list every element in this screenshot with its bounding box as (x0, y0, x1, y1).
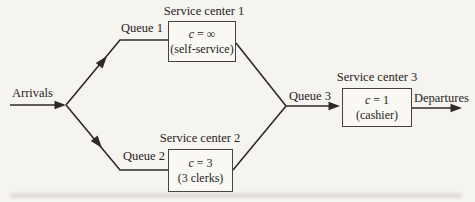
service-center-1-title: Service center 1 (134, 5, 274, 19)
departures-label: Departures (414, 92, 469, 106)
service-center-3-note: (cashier) (356, 108, 398, 122)
service-center-1-note: (self-service) (170, 42, 233, 56)
queueing-network-diagram: Arrivals Queue 1 Queue 2 Queue 3 Departu… (0, 0, 475, 202)
service-center-2-title: Service center 2 (130, 132, 270, 146)
service-center-1-output-line (236, 43, 286, 106)
scan-artifact-smudge (10, 193, 462, 198)
service-center-3-title: Service center 3 (307, 71, 447, 85)
service-center-1-box: c = ∞ (self-service) (168, 21, 236, 62)
service-center-1-capacity: c = ∞ (189, 27, 216, 42)
queue1-label: Queue 1 (121, 22, 163, 36)
service-center-2-note: (3 clerks) (178, 171, 224, 185)
arrivals-label: Arrivals (12, 87, 53, 101)
service-center-2-box: c = 3 (3 clerks) (168, 149, 233, 192)
service-center-3-box: c = 1 (cashier) (342, 88, 412, 127)
service-center-3-capacity: c = 1 (365, 93, 389, 108)
queue2-label: Queue 2 (123, 150, 165, 164)
upper-branch-line (66, 40, 168, 105)
queue3-label: Queue 3 (289, 90, 331, 104)
service-center-2-capacity: c = 3 (188, 156, 212, 171)
arrivals-arrowhead-icon (55, 101, 67, 109)
